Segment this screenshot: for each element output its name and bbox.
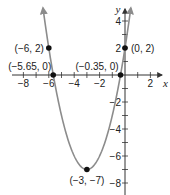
y-axis-label: y bbox=[115, 3, 121, 15]
data-point bbox=[118, 72, 124, 78]
point-label: (−0.35, 0) bbox=[75, 61, 118, 72]
x-axis: −8−6−4−22x bbox=[12, 72, 168, 89]
y-tick-label: −6 bbox=[110, 151, 122, 162]
point-label: (−5.65, 0) bbox=[8, 61, 51, 72]
x-axis-label: x bbox=[162, 77, 168, 89]
x-tick-label: −6 bbox=[43, 78, 55, 89]
data-point bbox=[50, 72, 56, 78]
x-tick-label: 2 bbox=[148, 78, 154, 89]
y-tick-label: −8 bbox=[110, 178, 122, 189]
parabola-chart: −8−6−4−22x 42−2−4−6−8y (−6, 2)(0, 2)(−5.… bbox=[0, 0, 170, 195]
x-tick-label: −8 bbox=[18, 78, 30, 89]
y-tick-label: 2 bbox=[115, 43, 121, 54]
point-label: (0, 2) bbox=[131, 43, 154, 54]
y-tick-label: −4 bbox=[110, 124, 122, 135]
x-tick-label: −2 bbox=[94, 78, 106, 89]
point-label: (−3, −7) bbox=[69, 175, 104, 186]
y-tick-label: 4 bbox=[115, 16, 121, 27]
data-point bbox=[46, 45, 52, 51]
labeled-points: (−6, 2)(0, 2)(−5.65, 0)(−0.35, 0)(−3, −7… bbox=[8, 43, 154, 186]
y-axis: 42−2−4−6−8y bbox=[110, 3, 128, 195]
x-tick-label: −4 bbox=[68, 78, 80, 89]
data-point bbox=[122, 45, 128, 51]
data-point bbox=[84, 167, 90, 173]
point-label: (−6, 2) bbox=[15, 43, 44, 54]
parabola-curve bbox=[43, 8, 131, 170]
